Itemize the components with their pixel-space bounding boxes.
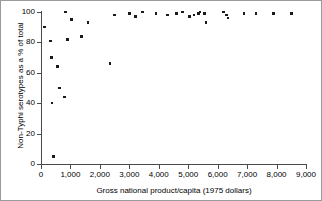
data-point <box>203 12 206 15</box>
data-point <box>141 11 144 14</box>
data-point <box>56 65 59 68</box>
x-tick-mark <box>100 165 101 169</box>
data-point <box>290 12 293 15</box>
y-tick-mark <box>37 134 41 135</box>
data-point <box>70 18 73 21</box>
x-tick-mark <box>277 165 278 169</box>
data-point <box>155 12 158 15</box>
data-point <box>50 56 53 59</box>
data-point <box>243 12 246 15</box>
y-tick-mark <box>37 42 41 43</box>
data-point <box>51 102 54 105</box>
data-point <box>181 11 184 14</box>
y-tick-label: 0 <box>13 160 35 168</box>
data-point <box>193 14 196 17</box>
data-point <box>109 62 112 65</box>
x-tick-mark <box>159 165 160 169</box>
data-point <box>113 14 116 17</box>
data-point <box>205 21 208 24</box>
x-axis-line <box>41 164 307 165</box>
data-point <box>272 12 275 15</box>
x-tick-mark <box>306 165 307 169</box>
data-point <box>52 155 55 158</box>
data-point <box>80 35 83 38</box>
data-point <box>128 12 131 15</box>
y-tick-mark <box>37 103 41 104</box>
data-point <box>175 12 178 15</box>
data-point <box>199 11 202 14</box>
y-tick-mark <box>37 12 41 13</box>
data-point <box>255 12 258 15</box>
data-point <box>227 17 230 20</box>
y-tick-label-wrap: 0 <box>11 160 35 168</box>
data-point <box>134 15 137 18</box>
scatter-plot-figure: 020406080100 01,0002,0003,0004,0005,0006… <box>0 0 322 201</box>
x-tick-mark <box>218 165 219 169</box>
x-tick-mark <box>188 165 189 169</box>
data-point <box>63 96 66 99</box>
x-axis-title: Gross national product/capita (1975 doll… <box>41 186 307 195</box>
x-tick-mark <box>247 165 248 169</box>
data-point <box>58 87 61 90</box>
y-tick-mark <box>37 73 41 74</box>
data-point <box>49 40 52 43</box>
data-point <box>188 15 191 18</box>
x-tick-mark <box>41 165 42 169</box>
data-point <box>166 14 169 17</box>
plot-area: 020406080100 01,0002,0003,0004,0005,0006… <box>1 1 322 201</box>
data-point <box>66 38 69 41</box>
x-tick-mark <box>70 165 71 169</box>
data-point <box>64 11 67 14</box>
x-tick-mark <box>129 165 130 169</box>
y-axis-line <box>41 11 42 165</box>
y-axis-title: Non-Typhi serotypes as a % of total <box>16 11 25 161</box>
data-point <box>87 21 90 24</box>
x-tick-label: 9,000 <box>286 171 322 179</box>
data-point <box>43 26 46 29</box>
